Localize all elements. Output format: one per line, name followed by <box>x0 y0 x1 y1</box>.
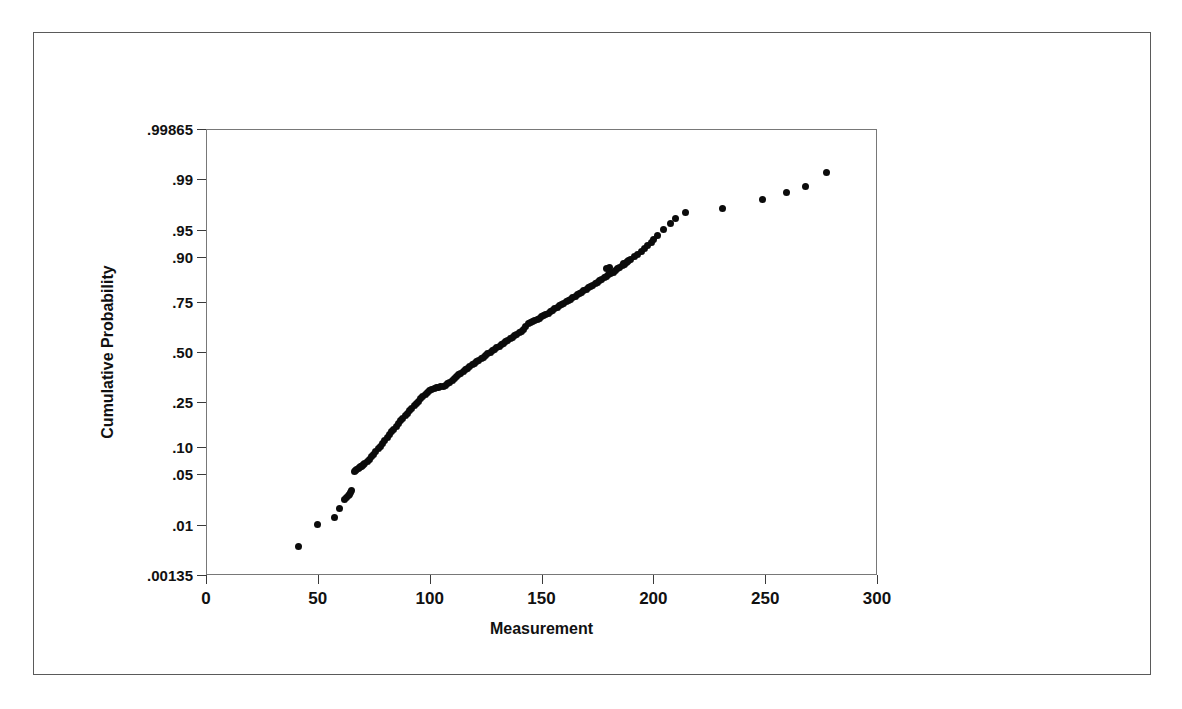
data-point <box>295 543 302 550</box>
data-point <box>660 226 667 233</box>
x-tick-label: 150 <box>512 589 572 609</box>
y-tick-label: .99865 <box>0 121 193 138</box>
x-tick-label: 300 <box>847 589 907 609</box>
y-tick-mark <box>197 525 206 526</box>
data-point <box>331 514 338 521</box>
x-tick-mark <box>765 575 766 584</box>
x-tick-mark <box>206 575 207 584</box>
y-tick-mark <box>197 402 206 403</box>
y-tick-label: .99 <box>0 171 193 188</box>
y-tick-label: .10 <box>0 439 193 456</box>
y-tick-label: .01 <box>0 516 193 533</box>
data-point <box>314 521 321 528</box>
x-axis-title: Measurement <box>206 620 877 638</box>
x-tick-label: 50 <box>288 589 348 609</box>
x-tick-label: 100 <box>400 589 460 609</box>
x-tick-label: 250 <box>735 589 795 609</box>
y-tick-mark <box>197 302 206 303</box>
normal-probability-plot: .00135.01.05.10.25.50.75.90.95.99.99865 … <box>0 0 1182 709</box>
data-point <box>682 209 689 216</box>
y-tick-label: .75 <box>0 293 193 310</box>
y-tick-mark <box>197 352 206 353</box>
data-point <box>672 215 679 222</box>
x-tick-label: 0 <box>176 589 236 609</box>
x-tick-mark <box>653 575 654 584</box>
x-tick-mark <box>542 575 543 584</box>
y-tick-label: .05 <box>0 466 193 483</box>
y-tick-mark <box>197 447 206 448</box>
y-tick-label: .25 <box>0 394 193 411</box>
y-axis-title: Cumulative Probability <box>99 265 117 438</box>
data-point <box>719 205 726 212</box>
x-tick-mark <box>877 575 878 584</box>
x-tick-mark <box>430 575 431 584</box>
y-tick-mark <box>197 129 206 130</box>
data-point <box>624 258 631 265</box>
data-point <box>783 189 790 196</box>
x-tick-label: 200 <box>623 589 683 609</box>
y-tick-label: .00135 <box>0 567 193 584</box>
data-point <box>802 183 809 190</box>
data-points-layer <box>206 129 877 575</box>
y-tick-mark <box>197 179 206 180</box>
data-point <box>336 505 343 512</box>
data-point <box>823 169 830 176</box>
data-point <box>348 487 355 494</box>
data-point <box>759 196 766 203</box>
data-point <box>654 232 661 239</box>
y-tick-label: .90 <box>0 248 193 265</box>
data-point <box>603 265 610 272</box>
y-tick-mark <box>197 575 206 576</box>
y-tick-mark <box>197 257 206 258</box>
y-tick-mark <box>197 230 206 231</box>
y-tick-mark <box>197 474 206 475</box>
y-tick-label: .50 <box>0 344 193 361</box>
y-tick-label: .95 <box>0 221 193 238</box>
x-tick-mark <box>318 575 319 584</box>
